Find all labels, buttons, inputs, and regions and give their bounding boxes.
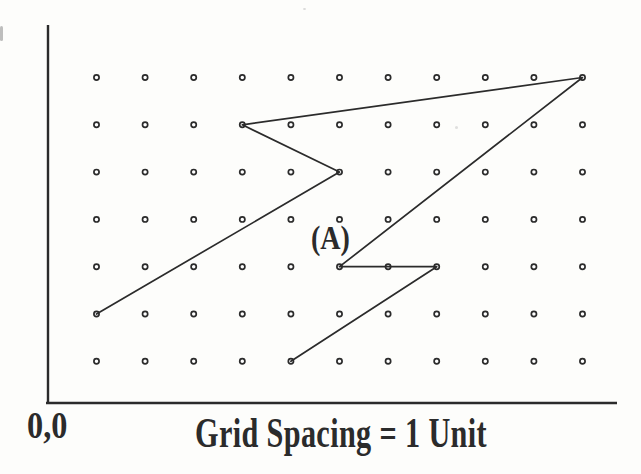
grid-dot	[483, 264, 488, 269]
grid-dot	[191, 217, 196, 222]
grid-dot	[240, 264, 245, 269]
grid-dot	[386, 217, 391, 222]
grid-dot	[531, 75, 536, 80]
grid-dot	[531, 264, 536, 269]
grid-dot	[434, 311, 439, 316]
grid-dot	[531, 359, 536, 364]
grid-dot	[386, 311, 391, 316]
grid-dot	[191, 359, 196, 364]
grid-dot	[191, 264, 196, 269]
grid-dot	[94, 359, 99, 364]
grid-dot	[191, 75, 196, 80]
grid-dot	[337, 122, 342, 127]
grid-dot	[483, 122, 488, 127]
grid-dot	[580, 311, 585, 316]
grid-dot	[143, 359, 148, 364]
grid-dot	[386, 359, 391, 364]
grid-spacing-caption: Grid Spacing = 1 Unit	[195, 412, 487, 454]
grid-dot	[143, 217, 148, 222]
grid-dot	[434, 75, 439, 80]
grid-dot	[143, 170, 148, 175]
grid-dot	[288, 122, 293, 127]
grid-dot	[94, 264, 99, 269]
grid-dot	[483, 359, 488, 364]
origin-label: 0,0	[27, 406, 67, 444]
grid-dot	[434, 217, 439, 222]
grid-dot	[483, 75, 488, 80]
grid-dot	[531, 311, 536, 316]
grid-dot	[483, 217, 488, 222]
scan-speck	[455, 126, 458, 129]
grid-dot	[531, 122, 536, 127]
grid-dot	[288, 311, 293, 316]
grid-dot	[483, 170, 488, 175]
grid-dot	[434, 170, 439, 175]
grid-dot	[94, 122, 99, 127]
grid-dot	[531, 170, 536, 175]
grid-dot	[191, 122, 196, 127]
path-a-label: (A)	[311, 222, 350, 255]
grid-dot	[580, 170, 585, 175]
grid-dot	[288, 264, 293, 269]
grid-dot	[337, 359, 342, 364]
grid-dot	[143, 75, 148, 80]
scan-edge-artifact	[0, 26, 3, 41]
grid-dot	[337, 75, 342, 80]
grid-dot	[386, 170, 391, 175]
grid-dot	[288, 75, 293, 80]
grid-dot	[94, 217, 99, 222]
grid-dot	[143, 122, 148, 127]
grid-dot	[531, 217, 536, 222]
grid-dot	[240, 359, 245, 364]
grid-dot	[580, 359, 585, 364]
grid-dot	[94, 75, 99, 80]
grid-dot	[386, 122, 391, 127]
grid-dot	[143, 311, 148, 316]
grid-dot	[240, 217, 245, 222]
grid-dot	[288, 170, 293, 175]
grid-dot	[483, 311, 488, 316]
worksheet-figure: 0,0 Grid Spacing = 1 Unit (A)	[0, 0, 641, 474]
grid-dot	[580, 264, 585, 269]
grid-dot	[191, 311, 196, 316]
grid-dot	[240, 170, 245, 175]
grid-dot	[240, 75, 245, 80]
grid-dot	[580, 217, 585, 222]
grid-dot	[240, 311, 245, 316]
grid-dot	[94, 170, 99, 175]
grid-dot	[337, 311, 342, 316]
grid-dot	[143, 264, 148, 269]
grid-dot	[580, 122, 585, 127]
grid-dot	[288, 217, 293, 222]
grid-dot	[434, 359, 439, 364]
grid-dot	[191, 170, 196, 175]
scan-speck	[303, 8, 306, 10]
grid-dot	[386, 75, 391, 80]
grid-dot	[434, 122, 439, 127]
